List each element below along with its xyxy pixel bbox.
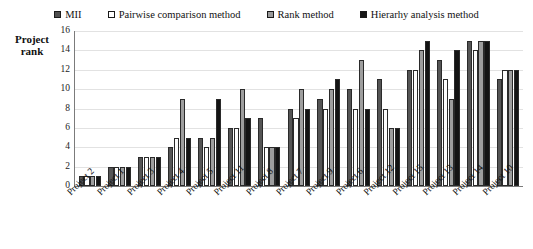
pairwise-swatch-icon <box>108 11 115 18</box>
bar <box>216 99 221 186</box>
y-axis-tick-label: 8 <box>40 104 70 114</box>
x-axis-label-cell: Project 6 <box>344 188 374 248</box>
bar <box>467 41 472 186</box>
bar <box>275 147 280 186</box>
bar <box>245 118 250 186</box>
bar <box>484 41 489 186</box>
x-axis-label-cell: Project 14 <box>463 188 493 248</box>
y-axis-tick-label: 6 <box>40 123 70 133</box>
x-axis-label-cell: Project 2 <box>75 188 105 248</box>
bar <box>335 79 340 186</box>
x-axis-label-cell: Project 15 <box>403 188 433 248</box>
y-axis-tick-label: 12 <box>40 65 70 75</box>
bar-group <box>105 31 135 186</box>
x-axis-label-cell: Project 10 <box>493 188 523 248</box>
legend-label-mii: MII <box>65 9 81 20</box>
legend-item-mii: MII <box>54 9 81 20</box>
bar-group <box>165 31 195 186</box>
legend-label-hierarchy: Hierarhy analysis method <box>371 9 479 20</box>
bar-group <box>254 31 284 186</box>
legend-item-hierarchy: Hierarhy analysis method <box>360 9 479 20</box>
bar <box>269 147 274 186</box>
y-axis-tick-label: 14 <box>40 45 70 55</box>
bar-group <box>314 31 344 186</box>
bar <box>454 50 459 186</box>
bar <box>156 157 161 186</box>
bar-group <box>194 31 224 186</box>
bar <box>425 41 430 186</box>
legend-item-rank: Rank method <box>267 9 334 20</box>
x-axis-label-cell: Project 13 <box>433 188 463 248</box>
bar <box>389 128 394 186</box>
bar <box>210 138 215 186</box>
x-axis-label-cell: Project 11 <box>224 188 254 248</box>
mii-swatch-icon <box>54 11 61 18</box>
bar <box>437 60 442 186</box>
y-axis-ticks: 1614121086420 <box>38 31 70 187</box>
y-axis-tick-label: 2 <box>40 162 70 172</box>
bar <box>365 109 370 187</box>
bar-group <box>284 31 314 186</box>
x-axis-label-cell: Project 7 <box>284 188 314 248</box>
bar-chart: MII Pairwise comparison method Rank meth… <box>0 0 533 249</box>
bar <box>395 128 400 186</box>
x-axis-label-cell: Project 4 <box>165 188 195 248</box>
legend-item-pairwise: Pairwise comparison method <box>108 9 241 20</box>
y-axis-tick-label: 4 <box>40 142 70 152</box>
rank-swatch-icon <box>267 11 274 18</box>
bar-group <box>344 31 374 186</box>
legend-label-pairwise: Pairwise comparison method <box>119 9 241 20</box>
legend-label-rank: Rank method <box>278 9 334 20</box>
bar-group <box>135 31 165 186</box>
x-axis-label-cell: Project 1 <box>105 188 135 248</box>
hierarchy-swatch-icon <box>360 11 367 18</box>
x-axis-labels: Project 2Project 1Project 3Project 4Proj… <box>75 188 523 248</box>
x-axis-label-cell: Project 8 <box>254 188 284 248</box>
y-axis-tick-label: 10 <box>40 84 70 94</box>
x-axis-label-cell: Project 3 <box>135 188 165 248</box>
bar <box>186 138 191 186</box>
x-axis-label-cell: Project 5 <box>194 188 224 248</box>
bar <box>305 109 310 187</box>
chart-legend: MII Pairwise comparison method Rank meth… <box>0 6 533 22</box>
bar-groups <box>75 31 523 186</box>
bar-group <box>75 31 105 186</box>
x-axis-label-cell: Project 12 <box>374 188 404 248</box>
x-axis-label-cell: Project 9 <box>314 188 344 248</box>
y-axis-tick-label: 16 <box>40 26 70 36</box>
